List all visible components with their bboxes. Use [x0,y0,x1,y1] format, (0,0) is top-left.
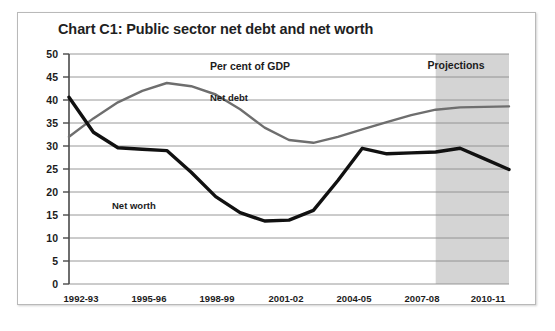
y-tick-0: 0 [52,278,58,290]
y-tick-25: 25 [46,163,58,175]
y-tick-40: 40 [46,94,58,106]
plot-area: 50 45 40 35 30 25 20 15 10 5 0 1992-93 1… [18,13,537,306]
y-tick-20: 20 [46,186,58,198]
y-tick-30: 30 [46,140,58,152]
projections-label: Projections [427,59,484,71]
series-label-net-worth: Net worth [112,200,156,211]
y-tick-50: 50 [46,48,58,60]
x-axis-tick-labels: 1992-93 1995-96 1998-99 2001-02 2004-05 … [64,293,506,304]
x-tick-1992-93: 1992-93 [64,293,99,304]
y-tick-45: 45 [46,71,58,83]
x-tick-2001-02: 2001-02 [269,293,304,304]
y-axis-tick-labels: 50 45 40 35 30 25 20 15 10 5 0 [46,48,58,290]
y-tick-35: 35 [46,117,58,129]
series-label-net-debt: Net debt [210,92,249,103]
y-tick-15: 15 [46,209,58,221]
x-tick-2004-05: 2004-05 [337,293,373,304]
chart-figure: Chart C1: Public sector net debt and net… [17,12,536,305]
y-axis-ticks [63,54,69,284]
units-label: Per cent of GDP [210,60,290,72]
y-tick-10: 10 [46,232,58,244]
x-tick-1998-99: 1998-99 [200,293,235,304]
y-tick-5: 5 [52,255,58,267]
line-chart-svg: 50 45 40 35 30 25 20 15 10 5 0 1992-93 1… [18,13,537,306]
x-tick-2007-08: 2007-08 [405,293,440,304]
x-tick-1995-96: 1995-96 [132,293,167,304]
x-tick-2010-11: 2010-11 [471,293,506,304]
